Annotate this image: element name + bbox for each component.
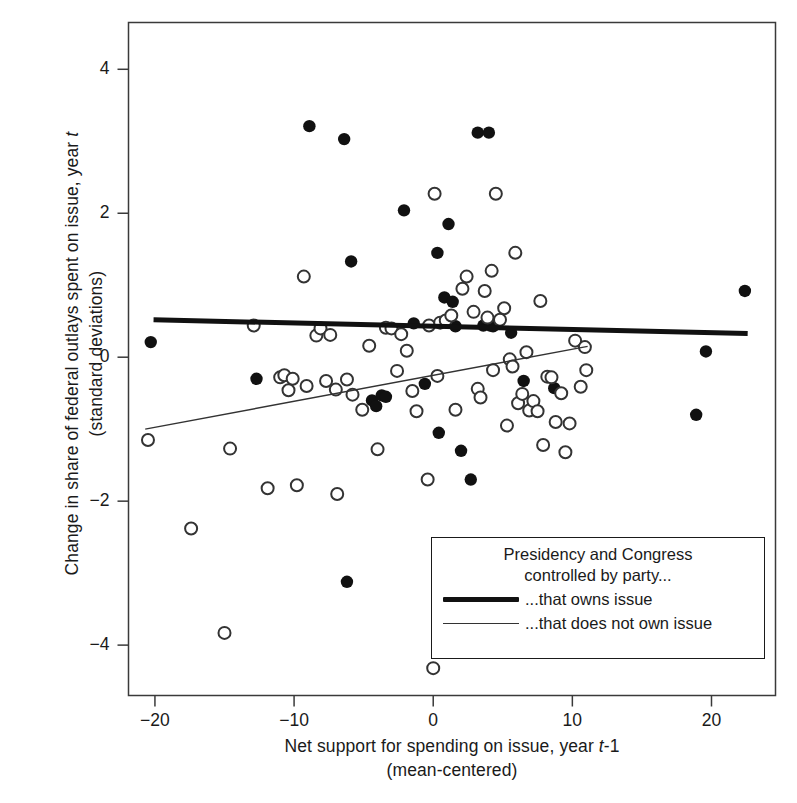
data-point-does-not-own-issue [475,392,487,404]
data-point-owns-issue [455,445,467,457]
data-point-does-not-own-issue [372,443,384,455]
legend-entry-does-not-own-issue: ...that does not own issue [432,614,764,633]
data-point-owns-issue [517,375,529,387]
data-point-does-not-own-issue [429,188,441,200]
x-tick-label: −20 [125,710,185,731]
data-point-does-not-own-issue [507,361,519,373]
data-point-owns-issue [431,247,443,259]
data-point-does-not-own-issue [298,271,310,283]
data-point-does-not-own-issue [490,188,502,200]
scatter-plot-figure: Change in share of federal outlays spent… [0,0,797,803]
data-point-owns-issue [341,576,353,588]
data-point-does-not-own-issue [494,314,506,326]
data-point-owns-issue [380,391,392,403]
data-point-does-not-own-issue [391,365,403,377]
data-point-owns-issue [446,296,458,308]
data-point-does-not-own-issue [224,443,236,455]
data-point-does-not-own-issue [550,416,562,428]
data-point-does-not-own-issue [356,404,368,416]
data-point-does-not-own-issue [401,345,413,357]
x-axis-title-line2: (mean-centered) [387,760,518,780]
plot-canvas [0,0,797,803]
legend-entry-owns-issue: ...that owns issue [432,590,764,609]
data-point-does-not-own-issue [456,283,468,295]
data-point-owns-issue [338,133,350,145]
data-point-does-not-own-issue [545,371,557,383]
legend-title: Presidency and Congress controlled by pa… [432,538,764,585]
data-point-does-not-own-issue [291,479,303,491]
data-point-owns-issue [483,126,495,138]
data-point-owns-issue [145,336,157,348]
data-point-does-not-own-issue [516,388,528,400]
data-point-does-not-own-issue [320,375,332,387]
legend-label-owns-issue: ...that owns issue [521,590,652,609]
thin-line-swatch [441,623,521,624]
data-point-does-not-own-issue [498,302,510,314]
data-point-owns-issue [700,345,712,357]
data-point-owns-issue [465,473,477,485]
data-point-does-not-own-issue [559,446,571,458]
data-point-does-not-own-issue [395,328,407,340]
data-point-does-not-own-issue [481,312,493,324]
data-point-owns-issue [419,378,431,390]
y-tick-label: 0 [70,346,110,367]
legend: Presidency and Congress controlled by pa… [431,537,765,659]
y-tick-label: 2 [70,202,110,223]
data-point-does-not-own-issue [534,295,546,307]
data-point-does-not-own-issue [479,285,491,297]
x-axis-title-text-b: -1 [604,736,620,756]
data-point-does-not-own-issue [411,405,423,417]
data-point-does-not-own-issue [324,329,336,341]
data-point-does-not-own-issue [555,387,567,399]
x-tick-label: 10 [542,710,602,731]
x-tick-label: −10 [264,710,324,731]
data-point-does-not-own-issue [331,488,343,500]
data-point-owns-issue [690,409,702,421]
data-point-does-not-own-issue [262,482,274,494]
y-tick-label: 4 [70,58,110,79]
data-point-does-not-own-issue [185,523,197,535]
data-point-does-not-own-issue [575,381,587,393]
legend-title-line2: controlled by party... [432,565,764,586]
data-point-owns-issue [739,285,751,297]
data-point-owns-issue [250,373,262,385]
data-point-does-not-own-issue [532,405,544,417]
legend-title-line1: Presidency and Congress [432,544,764,565]
data-point-does-not-own-issue [301,380,313,392]
thick-line-swatch [441,597,521,602]
data-point-does-not-own-issue [564,417,576,429]
data-point-does-not-own-issue [283,384,295,396]
data-point-does-not-own-issue [445,309,457,321]
y-tick-label: −2 [70,490,110,511]
data-point-owns-issue [472,126,484,138]
y-tick-label: −4 [70,634,110,655]
y-axis-title-italic-t: t [62,132,82,137]
data-point-does-not-own-issue [427,662,439,674]
x-axis-title-text-a: Net support for spending on issue, year [284,736,598,756]
data-point-does-not-own-issue [468,306,480,318]
x-tick-label: 20 [681,710,741,731]
data-point-owns-issue [345,255,357,267]
data-point-does-not-own-issue [287,373,299,385]
data-point-does-not-own-issue [501,420,513,432]
data-point-does-not-own-issue [537,439,549,451]
data-point-owns-issue [442,218,454,230]
x-axis-title: Net support for spending on issue, year … [128,735,776,782]
data-point-does-not-own-issue [363,340,375,352]
data-point-does-not-own-issue [449,404,461,416]
x-tick-label: 0 [403,710,463,731]
data-point-does-not-own-issue [341,374,353,386]
data-point-owns-issue [433,427,445,439]
legend-label-does-not-own-issue: ...that does not own issue [521,614,712,633]
data-point-does-not-own-issue [486,265,498,277]
data-point-does-not-own-issue [461,271,473,283]
data-point-does-not-own-issue [487,364,499,376]
data-point-does-not-own-issue [406,385,418,397]
data-point-does-not-own-issue [142,434,154,446]
x-axis-title-line1: Net support for spending on issue, year … [284,736,619,756]
data-point-owns-issue [398,204,410,216]
data-point-does-not-own-issue [509,247,521,259]
data-point-owns-issue [303,120,315,132]
data-point-owns-issue [370,400,382,412]
data-point-does-not-own-issue [580,364,592,376]
